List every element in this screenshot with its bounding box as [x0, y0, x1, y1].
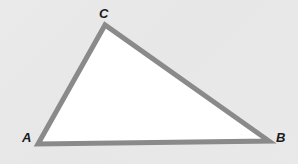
triangle-abc-shape — [38, 25, 269, 144]
vertex-label-b: B — [276, 131, 285, 144]
geometry-figure-canvas: A B C — [0, 0, 298, 164]
vertex-label-a: A — [22, 131, 31, 144]
triangle-svg — [0, 0, 298, 164]
vertex-label-c: C — [99, 7, 108, 20]
